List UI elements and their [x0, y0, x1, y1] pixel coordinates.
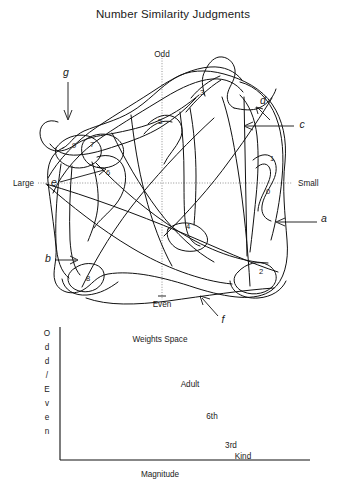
- curve-diag-4-to-topright: [164, 98, 272, 236]
- curve-region-2: [234, 263, 276, 294]
- region-number-4: 4: [186, 222, 190, 231]
- ylabel-char-2: d: [45, 357, 50, 366]
- plot-x-axis-label: Magnitude: [141, 470, 180, 479]
- callout-arrowhead-f: [200, 296, 210, 305]
- curve-region-9: [55, 135, 101, 168]
- callout-arrow-f: [202, 298, 218, 316]
- axis-label-even: Even: [153, 300, 172, 309]
- figure-title: Number Similarity Judgments: [96, 8, 250, 20]
- curve-inner-x2: [131, 115, 172, 266]
- figure-svg: Number Similarity Judgments: [0, 0, 346, 493]
- region-number-6: 6: [106, 168, 110, 177]
- callout-label-c: c: [299, 118, 305, 130]
- region-number-1: 1: [270, 154, 274, 163]
- region-number-3: 3: [200, 88, 204, 97]
- axis-label-small: Small: [298, 179, 319, 188]
- region-number-0: 0: [266, 187, 270, 196]
- plot-point-6th: 6th: [206, 412, 218, 421]
- topology-curves: [40, 57, 287, 304]
- curve-diag-6-to-right: [96, 163, 268, 263]
- curve-diag-left-to-2: [47, 185, 232, 284]
- ylabel-char-4: E: [44, 385, 50, 394]
- ylabel-char-1: d: [45, 343, 50, 352]
- region-number-9: 9: [72, 141, 76, 150]
- callout-label-e: e: [51, 176, 57, 188]
- weights-space-plot: O d d / E v e n Weights Space Adult 6th …: [44, 327, 310, 479]
- plot-caption: Weights Space: [133, 335, 188, 344]
- axis-label-odd: Odd: [154, 50, 170, 59]
- curve-upper-sweep-a: [48, 67, 242, 178]
- ylabel-char-3: /: [46, 371, 49, 380]
- curve-g-lobe: [40, 95, 199, 151]
- region-number-5: 5: [158, 117, 162, 126]
- ylabel-char-0: O: [44, 329, 50, 338]
- region-number-8: 8: [86, 274, 90, 283]
- callout-label-f: f: [222, 313, 226, 325]
- region-number-7: 7: [90, 140, 94, 149]
- callout-label-g: g: [63, 66, 69, 78]
- callout-arrow-e: [60, 170, 104, 182]
- plot-point-adult: Adult: [181, 380, 200, 389]
- callout-label-b: b: [45, 252, 51, 264]
- curve-right-inner-c: [240, 95, 258, 252]
- curve-bottom-boundary: [86, 288, 274, 304]
- plot-point-3rd: 3rd: [225, 441, 237, 450]
- curve-top-hump-right: [234, 89, 276, 110]
- axis-label-large: Large: [13, 179, 34, 188]
- callout-label-a: a: [321, 212, 327, 224]
- plot-point-kind: Kind: [235, 452, 252, 461]
- ylabel-char-7: n: [45, 427, 50, 436]
- figure-page: Number Similarity Judgments: [0, 0, 346, 493]
- region-number-2: 2: [259, 267, 263, 276]
- ylabel-char-5: v: [45, 399, 50, 408]
- ylabel-char-6: e: [45, 413, 50, 422]
